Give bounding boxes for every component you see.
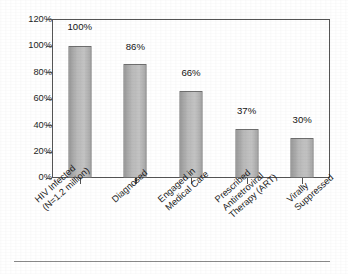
bottom-divider — [14, 261, 330, 262]
x-axis-category-label: HIV Infected (N=1.2 million) — [33, 157, 91, 213]
x-axis-category-line: Diagnosed — [110, 168, 150, 205]
x-axis-category-label: Diagnosed — [110, 168, 150, 205]
x-axis-category-label: Prescribed Antiretroviral Therapy (ART) — [213, 156, 279, 220]
chart-figure: 120% 100% 80% 60% 40% 20% 0% 100% 86% 66… — [0, 0, 348, 274]
x-axis-labels: HIV Infected (N=1.2 million) Diagnosed E… — [0, 0, 348, 274]
x-axis-category-label: Engaged in Medical Care — [156, 161, 210, 213]
x-axis-category-label: Virally Suppressed — [285, 164, 336, 213]
